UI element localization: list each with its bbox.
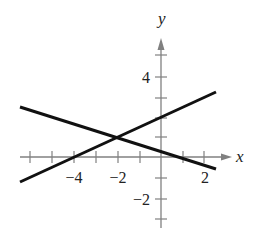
y-tick-label-4: 4 (142, 69, 150, 86)
x-axis-label: x (235, 147, 244, 166)
x-tick-label-neg2: −2 (109, 169, 126, 186)
coordinate-plane: −4 −2 2 4 −2 x y (0, 0, 255, 236)
y-tick-label-neg2: −2 (133, 191, 150, 208)
x-tick-label-neg4: −4 (65, 169, 82, 186)
y-axis-label: y (156, 9, 166, 28)
x-axis-arrow-icon (221, 154, 232, 161)
y-axis-arrow-icon (158, 38, 165, 50)
x-tick-label-2: 2 (201, 169, 209, 186)
